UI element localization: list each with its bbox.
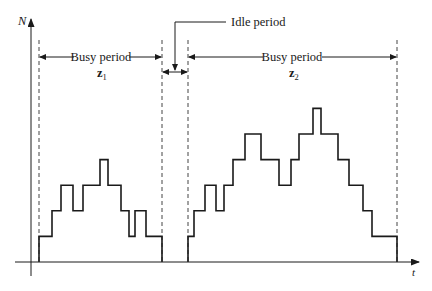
busy2-symbol: z2: [289, 66, 299, 82]
busy-idle-period-diagram: N t Busy period z1 Idle period Busy peri…: [0, 0, 432, 291]
idle-label: Idle period: [231, 15, 286, 29]
period-boundaries: [39, 40, 397, 262]
step-functions: [39, 108, 397, 262]
busy-period-1-annotation: Busy period z1: [40, 50, 161, 82]
x-axis-label: t: [412, 266, 416, 278]
y-axis-label: N: [17, 14, 27, 28]
busy2-label: Busy period: [262, 50, 324, 64]
busy-period-2-annotation: Busy period z2: [189, 50, 396, 82]
busy-period-1-steps: [39, 160, 162, 262]
busy1-label: Busy period: [71, 50, 133, 64]
busy-period-2-steps: [188, 108, 397, 262]
busy1-symbol: z1: [97, 66, 107, 82]
idle-pointer-line: [175, 22, 226, 70]
